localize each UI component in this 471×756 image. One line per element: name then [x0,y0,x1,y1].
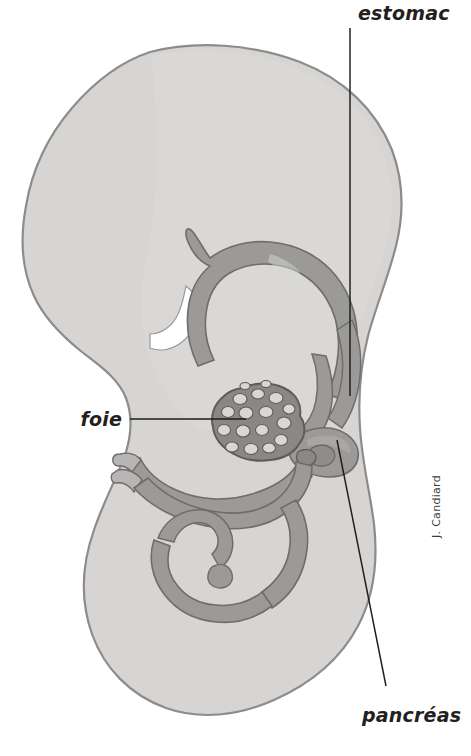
artist-credit: J. Candiard [430,475,443,539]
label-foie: foie [80,408,122,430]
cloaca-nub [208,564,233,588]
label-pancreas: pancréas [361,704,461,726]
label-estomac: estomac [358,2,450,24]
embryo-digestive-diagram: estomac foie pancréas J. Candiard [0,0,471,756]
artist-credit-text: J. Candiard [430,475,443,539]
